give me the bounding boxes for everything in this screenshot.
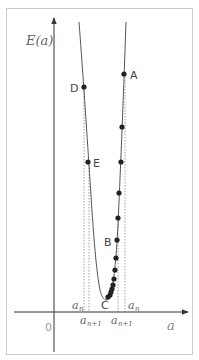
iterate-point <box>116 190 121 195</box>
point-a <box>121 71 126 76</box>
label-e: E <box>93 157 100 170</box>
tick-label-a-n1-right: a n+1 <box>111 314 133 328</box>
tick-label-a-n-right: a n <box>128 299 140 313</box>
iterate-point <box>113 255 118 260</box>
point-e <box>85 159 90 164</box>
svg-text:n+1: n+1 <box>87 320 102 328</box>
svg-text:n+1: n+1 <box>118 320 133 328</box>
label-a: A <box>130 69 138 82</box>
iterate-point <box>119 124 124 129</box>
label-c: C <box>101 299 109 312</box>
tick-label-a-n1-left: a n+1 <box>80 314 102 328</box>
x-axis-label: a <box>167 318 175 333</box>
y-axis-label: E(a) <box>25 33 53 48</box>
tick-label-a-n-left: a n <box>72 299 84 313</box>
svg-text:a: a <box>128 299 135 312</box>
figure-frame <box>7 9 193 355</box>
svg-text:n: n <box>135 305 140 313</box>
svg-text:n: n <box>79 305 84 313</box>
svg-text:a: a <box>111 314 118 327</box>
iterate-point <box>115 215 120 220</box>
origin-label: 0 <box>45 321 52 334</box>
label-b: B <box>104 236 112 249</box>
diagram-figure: E(a) a 0 A D E B C a n a n+1 a n+1 a n <box>0 0 199 360</box>
label-d: D <box>70 82 78 95</box>
iterate-point <box>112 267 117 272</box>
svg-text:a: a <box>80 314 87 327</box>
iterate-point <box>111 276 116 281</box>
svg-text:a: a <box>72 299 79 312</box>
iterate-point <box>118 159 123 164</box>
point-d <box>81 84 86 89</box>
point-b <box>114 237 119 242</box>
